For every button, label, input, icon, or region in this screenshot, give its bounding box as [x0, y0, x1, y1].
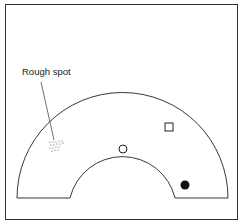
rough-spot-label: Rough spot [22, 66, 71, 77]
frame-border [6, 5, 238, 220]
rough-spot-leader-line [41, 82, 54, 140]
diagram-canvas: Rough spot [0, 0, 242, 224]
diagram-svg [0, 0, 242, 224]
open-square-marker [165, 123, 173, 131]
open-circle-marker [119, 145, 127, 153]
filled-circle-marker [181, 181, 190, 190]
rough-spot-dots [49, 140, 63, 151]
